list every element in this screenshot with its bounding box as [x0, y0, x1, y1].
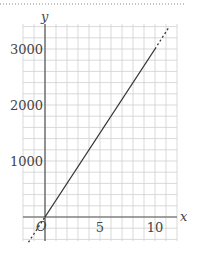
y-tick-label: 3000: [10, 42, 43, 57]
y-axis-label: y: [40, 9, 49, 24]
series-line: [29, 27, 170, 243]
y-tick-label: 1000: [10, 154, 43, 169]
chart: 510100020003000 x y O: [0, 0, 198, 255]
x-axis-label: x: [180, 209, 188, 224]
x-tick-label: 5: [96, 220, 104, 235]
x-tick-label: 10: [147, 220, 164, 235]
y-tick-label: 2000: [10, 98, 43, 113]
origin-label: O: [36, 219, 47, 234]
